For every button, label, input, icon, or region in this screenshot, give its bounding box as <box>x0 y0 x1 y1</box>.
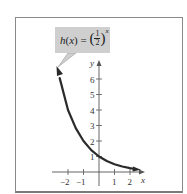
curve-arrow-left-icon <box>57 66 64 76</box>
callout-pointer <box>58 53 76 67</box>
exponent: x <box>105 27 108 35</box>
x-axis-label: x <box>140 175 145 185</box>
function-label-callout: h(x) = (12)x <box>55 27 110 53</box>
fraction-denominator: 2 <box>95 39 99 47</box>
y-axis-label: y <box>89 58 94 68</box>
y-tick-label: 4 <box>90 106 95 116</box>
x-axis-arrow-icon <box>139 170 145 175</box>
x-tick-label: 1 <box>112 177 117 187</box>
y-axis-arrow-icon <box>97 60 102 66</box>
y-tick-label: 2 <box>90 137 95 147</box>
y-tick-label: 3 <box>90 121 95 131</box>
x-tick-label: 2 <box>128 177 133 187</box>
y-tick-label: 5 <box>90 90 95 100</box>
x-tick-label: −1 <box>76 177 86 187</box>
function-label: h(x) = (12)x <box>60 33 109 47</box>
function-curve <box>60 78 135 169</box>
x-tick-label: −2 <box>60 177 70 187</box>
y-tick-label: 6 <box>90 75 95 85</box>
equals-sign: = <box>80 34 86 46</box>
